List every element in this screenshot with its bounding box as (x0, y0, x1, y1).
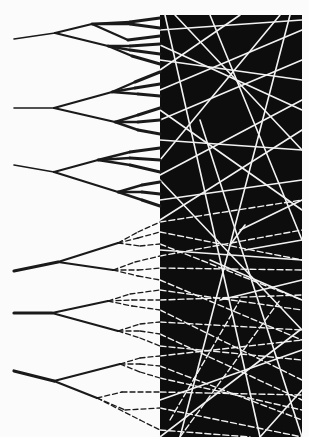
branching-diagram-figure (0, 0, 309, 437)
tree-leaf (138, 120, 160, 122)
tree-leaf (130, 158, 160, 160)
tree-leaf (130, 44, 160, 46)
tree-leaf (142, 192, 160, 194)
diagram-canvas (0, 0, 309, 437)
tree-leaf (138, 94, 160, 96)
